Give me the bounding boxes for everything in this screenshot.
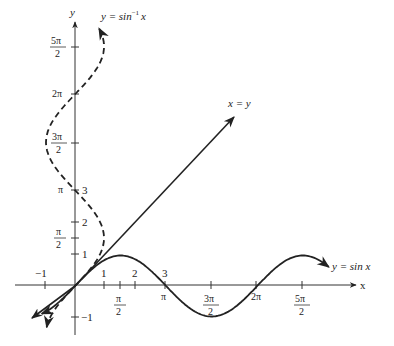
y-tick-pi: π: [58, 184, 63, 195]
svg-text:2: 2: [56, 239, 61, 250]
svg-text:5π: 5π: [51, 35, 61, 46]
svg-text:π: π: [56, 226, 61, 237]
y-tick-3pi-over-2: 3π 2: [51, 131, 67, 155]
x-tick-neg1: −1: [35, 267, 47, 279]
y-tick-2: 2: [82, 216, 88, 228]
y-tick-1: 1: [82, 248, 88, 260]
svg-text:3π: 3π: [52, 131, 62, 142]
y-tick-5pi-over-2: 5π 2: [50, 35, 66, 59]
identity-line-negative: [32, 286, 75, 318]
svg-text:2: 2: [116, 306, 121, 317]
identity-line: [75, 117, 234, 286]
x-tick-5pi-over-2: 5π 2: [294, 293, 310, 317]
sine-label: y = sin x: [331, 260, 370, 272]
svg-text:2: 2: [299, 306, 304, 317]
x-tick-2: 2: [132, 267, 138, 279]
identity-label: x = y: [227, 97, 251, 109]
function-inverse-diagram: x y y = sin x x = y y = sin−1x −1 1 2 3 …: [0, 0, 394, 346]
x-tick-pi: π: [161, 291, 166, 302]
arcsine-label: y = sin−1x: [100, 9, 146, 22]
sine-curve: [42, 256, 329, 317]
svg-text:2: 2: [208, 306, 213, 317]
x-tick-pi-over-2: π 2: [114, 293, 126, 317]
svg-text:π: π: [116, 293, 121, 304]
x-axis-label: x: [360, 279, 366, 291]
svg-text:2: 2: [55, 48, 60, 59]
y-tick-3: 3: [82, 184, 88, 196]
y-tick-2pi: 2π: [52, 88, 62, 99]
x-tick-1: 1: [101, 267, 107, 279]
y-tick-neg1: −1: [81, 311, 93, 323]
y-axis-label: y: [69, 6, 75, 18]
x-tick-2pi: 2π: [251, 291, 261, 302]
svg-text:3π: 3π: [204, 293, 214, 304]
svg-text:2: 2: [56, 144, 61, 155]
y-tick-pi-over-2: π 2: [54, 226, 66, 250]
x-tick-3: 3: [162, 267, 168, 279]
svg-text:5π: 5π: [295, 293, 305, 304]
x-tick-3pi-over-2: 3π 2: [203, 293, 219, 317]
